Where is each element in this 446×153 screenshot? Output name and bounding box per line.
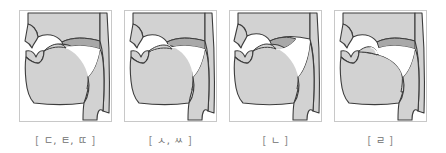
hard-palate-and-upper-head-tissue (238, 13, 310, 41)
bracket-open-1: [ (35, 135, 40, 146)
panel-label-nasal: [ ㄴ ] (229, 132, 322, 147)
hard-palate-and-upper-head-tissue (28, 13, 100, 42)
sagittal-vocal-tract-diagram-liquid (335, 11, 426, 121)
bracket-close-2: ] (188, 135, 193, 146)
diagram-panel-stops (19, 10, 112, 122)
bracket-close-3: ] (284, 135, 289, 146)
head-tissue-group (130, 13, 214, 120)
head-tissue-group (340, 13, 424, 120)
bracket-close-1: ] (91, 135, 96, 146)
diagram-panel-liquid (334, 10, 427, 122)
label-row: [ ㄷ, ㅌ, ㄸ ] [ ㅅ, ㅆ ] [ ㄴ ] [ ㄹ ] (0, 126, 446, 153)
label-text-4: ㄹ (376, 135, 386, 146)
panel-label-fricatives: [ ㅅ, ㅆ ] (124, 132, 217, 147)
bracket-open-2: [ (149, 135, 154, 146)
head-tissue-group (234, 13, 319, 120)
bracket-close-4: ] (389, 135, 394, 146)
head-tissue-group (25, 13, 109, 120)
panel-label-stops: [ ㄷ, ㅌ, ㄸ ] (19, 132, 112, 147)
diagram-panel-fricatives (124, 10, 217, 122)
label-text-3: ㄴ (271, 135, 281, 146)
panel-label-liquid: [ ㄹ ] (334, 132, 427, 147)
bracket-open-4: [ (367, 135, 372, 146)
panel-row (0, 0, 446, 127)
sagittal-vocal-tract-diagram-stops (20, 11, 111, 121)
bracket-open-3: [ (262, 135, 267, 146)
diagram-panel-nasal (229, 10, 322, 122)
label-text-1: ㄷ, ㅌ, ㄸ (44, 135, 88, 146)
articulation-figure: [ ㄷ, ㅌ, ㄸ ] [ ㅅ, ㅆ ] [ ㄴ ] [ ㄹ ] (0, 0, 446, 153)
label-text-2: ㅅ, ㅆ (157, 135, 184, 146)
sagittal-vocal-tract-diagram-nasal (230, 11, 321, 121)
hard-palate-and-upper-head-tissue (343, 13, 415, 42)
hard-palate-and-upper-head-tissue (133, 13, 205, 42)
sagittal-vocal-tract-diagram-fricatives (125, 11, 216, 121)
